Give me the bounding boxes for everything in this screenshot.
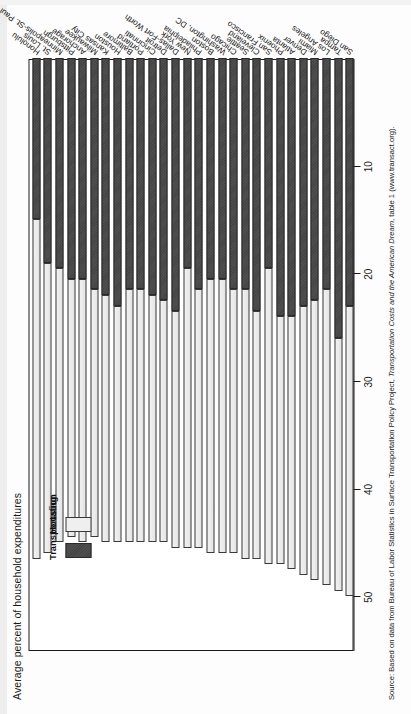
x-axis-tick bbox=[353, 273, 360, 274]
bar-row bbox=[136, 58, 144, 650]
legend-swatch-transportation bbox=[65, 543, 91, 558]
bar-row bbox=[55, 58, 63, 650]
bar-segment-housing bbox=[32, 219, 40, 558]
source-suffix: , table 1 (www.transact.org). bbox=[386, 126, 395, 221]
bar-segment-housing bbox=[67, 279, 75, 537]
bar-segment-transportation bbox=[287, 58, 295, 316]
bar-segment-transportation bbox=[136, 58, 144, 289]
bar-segment-transportation bbox=[101, 58, 109, 295]
source-prefix: Source: Based on data from Bureau of Lab… bbox=[386, 377, 395, 700]
bar-segment-transportation bbox=[55, 58, 63, 268]
bar-segment-housing bbox=[90, 289, 98, 537]
bar-segment-transportation bbox=[334, 58, 342, 338]
bar-row bbox=[299, 58, 307, 650]
bar-segment-transportation bbox=[90, 58, 98, 289]
x-axis-tick bbox=[353, 381, 360, 382]
bar-segment-housing bbox=[78, 279, 86, 543]
bar-row bbox=[101, 58, 109, 650]
bar-segment-transportation bbox=[43, 58, 51, 263]
bar-segment-housing bbox=[252, 311, 260, 559]
bar-segment-transportation bbox=[113, 58, 121, 306]
bar-segment-transportation bbox=[218, 58, 226, 279]
bar-segment-transportation bbox=[299, 58, 307, 306]
bar-segment-housing bbox=[148, 295, 156, 543]
bar-row bbox=[276, 58, 284, 650]
bar-segment-transportation bbox=[345, 58, 353, 306]
bar-segment-transportation bbox=[241, 58, 249, 289]
bar-segment-transportation bbox=[171, 58, 179, 311]
bar-row bbox=[241, 58, 249, 650]
bar-segment-housing bbox=[159, 300, 167, 542]
bar-segment-housing bbox=[113, 306, 121, 543]
bar-segment-housing bbox=[276, 316, 284, 564]
bar-row bbox=[264, 58, 272, 650]
bar-segment-housing bbox=[183, 268, 191, 548]
figure: Average percent of household expenditure… bbox=[0, 0, 411, 714]
bar-segment-housing bbox=[218, 279, 226, 553]
bar-row bbox=[159, 58, 167, 650]
bar-segment-transportation bbox=[252, 58, 260, 311]
bar-segment-transportation bbox=[78, 58, 86, 279]
x-axis-tick-label: 30 bbox=[362, 376, 373, 387]
bar-row bbox=[148, 58, 156, 650]
bar-row bbox=[310, 58, 318, 650]
bar-segment-transportation bbox=[159, 58, 167, 300]
bar-segment-transportation bbox=[322, 58, 330, 289]
page-background: Average percent of household expenditure… bbox=[0, 0, 411, 714]
bar-segment-housing bbox=[125, 289, 133, 542]
bar-segment-housing bbox=[136, 289, 144, 542]
bar-row bbox=[252, 58, 260, 650]
bar-segment-housing bbox=[101, 295, 109, 543]
bar-segment-housing bbox=[264, 268, 272, 564]
bar-row bbox=[113, 58, 121, 650]
x-axis-tick-label: 40 bbox=[362, 484, 373, 495]
bar-segment-housing bbox=[241, 289, 249, 558]
bar-row bbox=[67, 58, 75, 650]
x-axis-line bbox=[353, 59, 354, 651]
axis-title: Average percent of household expenditure… bbox=[10, 493, 22, 700]
source-note: Source: Based on data from Bureau of Lab… bbox=[386, 126, 395, 700]
bar-segment-transportation bbox=[183, 58, 191, 268]
bar-segment-housing bbox=[345, 306, 353, 597]
bar-row bbox=[125, 58, 133, 650]
bar-segment-transportation bbox=[125, 58, 133, 289]
bar-row bbox=[218, 58, 226, 650]
x-axis-tick bbox=[353, 596, 360, 597]
bar-segment-housing bbox=[310, 300, 318, 580]
bar-segment-transportation bbox=[229, 58, 237, 289]
bar-row bbox=[334, 58, 342, 650]
bar-segment-transportation bbox=[264, 58, 272, 268]
bar-row bbox=[229, 58, 237, 650]
bar-segment-housing bbox=[229, 289, 237, 553]
bar-row bbox=[171, 58, 179, 650]
bar-segment-transportation bbox=[206, 58, 214, 279]
legend-swatch-housing bbox=[65, 517, 91, 532]
bar-segment-transportation bbox=[194, 58, 202, 289]
bar-row bbox=[43, 58, 51, 650]
bar-segment-transportation bbox=[32, 58, 40, 219]
bar-row bbox=[206, 58, 214, 650]
bar-segment-housing bbox=[299, 306, 307, 575]
bar-row bbox=[32, 58, 40, 650]
bars-container bbox=[29, 60, 352, 650]
rotated-figure-canvas: Average percent of household expenditure… bbox=[0, 0, 411, 714]
bar-segment-transportation bbox=[67, 58, 75, 279]
bar-segment-housing bbox=[334, 338, 342, 591]
x-axis-tick-label: 10 bbox=[362, 161, 373, 172]
bar-segment-housing bbox=[171, 311, 179, 548]
legend-label-housing: Housing bbox=[46, 497, 57, 535]
bar-segment-housing bbox=[194, 289, 202, 547]
source-title: Transportation Costs and the American Dr… bbox=[386, 221, 395, 377]
bar-segment-transportation bbox=[148, 58, 156, 295]
bar-segment-transportation bbox=[276, 58, 284, 316]
x-axis-tick-label: 20 bbox=[362, 269, 373, 280]
bar-row bbox=[322, 58, 330, 650]
bar-row bbox=[287, 58, 295, 650]
bar-segment-housing bbox=[206, 279, 214, 553]
plot-area: Transportation Housing bbox=[28, 59, 353, 651]
bar-row bbox=[194, 58, 202, 650]
x-axis-tick-label: 50 bbox=[362, 592, 373, 603]
bar-row bbox=[78, 58, 86, 650]
x-axis-tick bbox=[353, 166, 360, 167]
bar-segment-housing bbox=[322, 289, 330, 585]
